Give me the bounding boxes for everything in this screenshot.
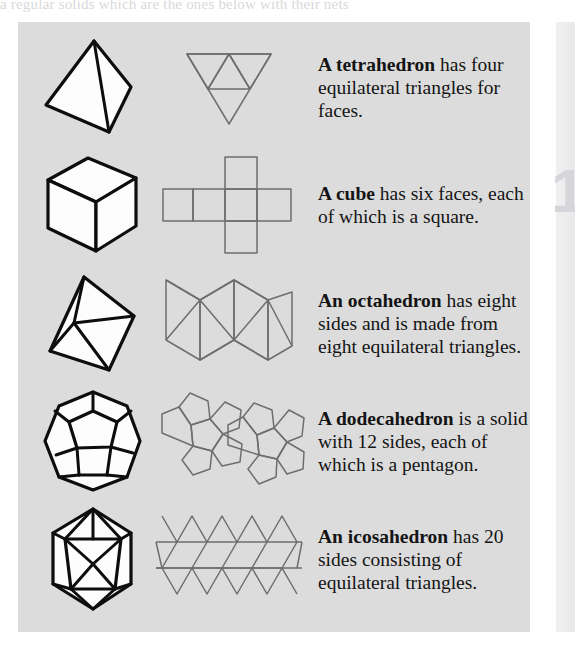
icosahedron-net-figure xyxy=(154,510,304,608)
cube-net-icon xyxy=(165,153,293,257)
octahedron-net-icon xyxy=(160,276,298,370)
solid-row-cube: A cube has six faces, each of which is a… xyxy=(18,146,530,264)
dodecahedron-net-figure xyxy=(154,389,304,493)
dodecahedron-3d-icon xyxy=(41,389,145,493)
icosahedron-3d-figure xyxy=(32,506,154,612)
solid-row-dodecahedron: A dodecahedron is a solid with 12 sides,… xyxy=(18,382,530,500)
dodecahedron-3d-figure xyxy=(32,389,154,493)
icosahedron-net-icon xyxy=(154,510,304,608)
icosahedron-3d-icon xyxy=(43,506,143,612)
cube-3d-figure xyxy=(32,154,154,256)
cube-description: A cube has six faces, each of which is a… xyxy=(304,182,530,228)
octahedron-3d-icon xyxy=(41,271,145,375)
solid-row-icosahedron: An icosahedron has 20 sides consisting o… xyxy=(18,500,530,618)
scanned-header-text: a regular solids which are the ones belo… xyxy=(0,0,575,16)
cube-net-figure xyxy=(154,153,304,257)
icosahedron-lead: An icosahedron xyxy=(318,526,448,547)
solid-row-tetrahedron: A tetrahedron has four equilateral trian… xyxy=(18,28,530,146)
solid-row-octahedron: An octahedron has eight sides and is mad… xyxy=(18,264,530,382)
adjacent-column-strip xyxy=(556,22,575,632)
platonic-solids-panel: A tetrahedron has four equilateral trian… xyxy=(18,22,530,632)
tetrahedron-3d-figure xyxy=(32,35,154,139)
tetrahedron-lead: A tetrahedron xyxy=(318,54,435,75)
octahedron-lead: An octahedron xyxy=(318,290,442,311)
tetrahedron-3d-icon xyxy=(37,35,149,139)
dodecahedron-description: A dodecahedron is a solid with 12 sides,… xyxy=(304,407,530,476)
cube-lead: A cube xyxy=(318,183,375,204)
dodecahedron-lead: A dodecahedron xyxy=(318,408,454,429)
tetrahedron-net-icon xyxy=(183,46,275,128)
octahedron-3d-figure xyxy=(32,271,154,375)
cube-3d-icon xyxy=(42,154,144,256)
octahedron-net-figure xyxy=(154,276,304,370)
dodecahedron-net-icon xyxy=(153,389,305,493)
page-number: 1 xyxy=(551,160,575,230)
tetrahedron-description: A tetrahedron has four equilateral trian… xyxy=(304,53,530,122)
tetrahedron-net-figure xyxy=(154,46,304,128)
icosahedron-description: An icosahedron has 20 sides consisting o… xyxy=(304,525,530,594)
octahedron-description: An octahedron has eight sides and is mad… xyxy=(304,289,530,358)
